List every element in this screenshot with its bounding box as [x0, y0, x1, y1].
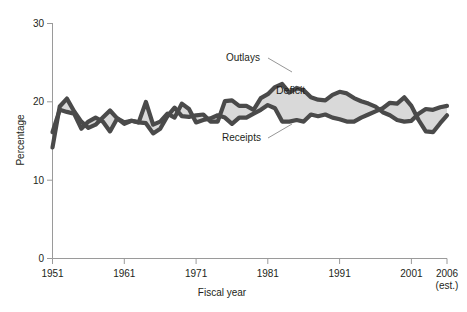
receipts-label: Receipts [222, 132, 261, 143]
x-tick-label-1951: 1951 [41, 268, 64, 279]
outlays-label: Outlays [226, 52, 260, 63]
y-tick-label-30: 30 [33, 18, 45, 29]
x-tick-label-2006-note: (est.) [436, 280, 459, 291]
y-tick-label-20: 20 [33, 96, 45, 107]
x-tick-label-1991: 1991 [328, 268, 351, 279]
deficit-label: Deficit [276, 84, 305, 96]
chart-background [0, 0, 467, 312]
fiscal-outlays-receipts-chart: 30 20 10 0 1951 1961 1971 1981 1991 2001… [0, 0, 467, 312]
y-tick-label-0: 0 [38, 253, 44, 264]
x-axis-title: Fiscal year [198, 287, 247, 298]
x-tick-label-2001: 2001 [400, 268, 423, 279]
y-axis-title: Percentage [15, 114, 26, 166]
x-tick-label-1971: 1971 [185, 268, 208, 279]
x-tick-label-1961: 1961 [113, 268, 136, 279]
x-tick-label-1981: 1981 [257, 268, 280, 279]
chart-container: 30 20 10 0 1951 1961 1971 1981 1991 2001… [0, 0, 467, 312]
x-tick-label-2006: 2006 [436, 268, 459, 279]
y-tick-label-10: 10 [33, 175, 45, 186]
